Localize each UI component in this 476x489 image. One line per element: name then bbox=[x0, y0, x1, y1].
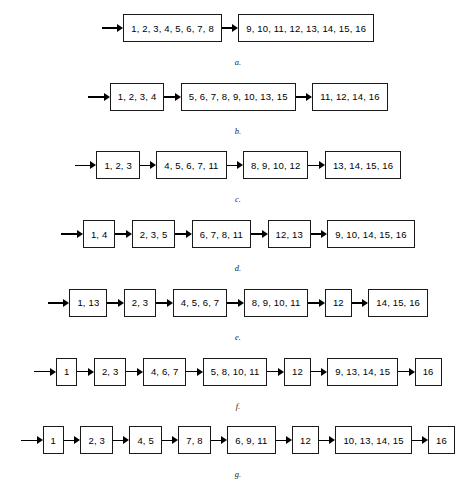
chain-box: 1, 2, 3, 4, 5, 6, 7, 8 bbox=[123, 14, 222, 42]
diagram-row-a: 1, 2, 3, 4, 5, 6, 7, 8 9, 10, 11, 12, 13… bbox=[0, 8, 476, 77]
row-label-text: e. bbox=[235, 332, 241, 342]
entry-arrow-icon bbox=[34, 367, 56, 377]
chain-box: 8, 9, 10, 12 bbox=[243, 151, 308, 179]
chain-box: 4, 5 bbox=[129, 426, 161, 454]
link-arrow-icon bbox=[77, 367, 94, 377]
chain-box: 1 bbox=[43, 426, 64, 454]
link-arrow-icon bbox=[227, 160, 244, 170]
chain-box: 9, 10, 11, 12, 13, 14, 15, 16 bbox=[238, 14, 374, 42]
box-chain-e: 1, 13 2, 3 4, 5, 6, 7 8, 9, 10, 11 12 14… bbox=[48, 283, 428, 323]
row-label-text: c. bbox=[235, 194, 241, 204]
entry-arrow-icon bbox=[21, 435, 43, 445]
link-arrow-icon bbox=[319, 435, 336, 445]
row-label-text: d. bbox=[235, 263, 241, 273]
chain-box: 16 bbox=[415, 358, 442, 386]
box-chain-b: 1, 2, 3, 4 5, 6, 7, 8, 9, 10, 13, 15 11,… bbox=[88, 77, 387, 117]
row-label-text: a. bbox=[235, 57, 241, 67]
row-label-text: g. bbox=[235, 469, 241, 479]
link-arrow-icon bbox=[251, 229, 268, 239]
chain-box: 4, 5, 6, 7, 11 bbox=[156, 151, 226, 179]
chain-box: 2, 3, 5 bbox=[132, 220, 175, 248]
chain-box: 6, 9, 11 bbox=[227, 426, 275, 454]
diagram-row-d: 1, 4 2, 3, 5 6, 7, 8, 11 12, 13 9, 10, 1… bbox=[0, 214, 476, 283]
chain-box: 12 bbox=[292, 426, 319, 454]
link-arrow-icon bbox=[308, 298, 325, 308]
link-arrow-icon bbox=[311, 367, 328, 377]
box-chain-c: 1, 2, 3 4, 5, 6, 7, 11 8, 9, 10, 12 13, … bbox=[75, 145, 401, 185]
chain-box: 5, 6, 7, 8, 9, 10, 13, 15 bbox=[181, 83, 296, 111]
chain-box: 1, 2, 3 bbox=[96, 151, 139, 179]
link-arrow-icon bbox=[113, 435, 130, 445]
chain-box: 1, 13 bbox=[69, 289, 107, 317]
link-arrow-icon bbox=[107, 298, 124, 308]
chain-box: 9, 13, 14, 15 bbox=[327, 358, 398, 386]
chain-box: 10, 13, 14, 15 bbox=[335, 426, 411, 454]
link-arrow-icon bbox=[175, 229, 192, 239]
row-label: a. bbox=[0, 57, 476, 67]
link-arrow-icon bbox=[311, 229, 328, 239]
box-chain-g: 1 2, 3 4, 5 7, 8 6, 9, 11 12 10, 13, 14,… bbox=[21, 420, 455, 460]
link-arrow-icon bbox=[186, 367, 203, 377]
chain-box: 4, 6, 7 bbox=[143, 358, 186, 386]
chain-box: 1 bbox=[56, 358, 77, 386]
chain-box: 12, 13 bbox=[268, 220, 311, 248]
chain-box: 7, 8 bbox=[178, 426, 210, 454]
link-arrow-icon bbox=[164, 92, 181, 102]
chain-box: 12 bbox=[284, 358, 311, 386]
link-arrow-icon bbox=[126, 367, 143, 377]
link-arrow-icon bbox=[227, 298, 244, 308]
link-arrow-icon bbox=[412, 435, 429, 445]
chain-box: 5, 8, 10, 11 bbox=[203, 358, 268, 386]
row-label: d. bbox=[0, 263, 476, 273]
diagram-row-g: 1 2, 3 4, 5 7, 8 6, 9, 11 12 10, 13, 14,… bbox=[0, 420, 476, 489]
link-arrow-icon bbox=[156, 298, 173, 308]
link-arrow-icon bbox=[267, 367, 284, 377]
link-arrow-icon bbox=[211, 435, 228, 445]
link-arrow-icon bbox=[222, 23, 239, 33]
row-label: b. bbox=[0, 126, 476, 136]
chain-box: 1, 2, 3, 4 bbox=[110, 83, 164, 111]
link-arrow-icon bbox=[308, 160, 325, 170]
chain-box: 14, 15, 16 bbox=[368, 289, 428, 317]
row-label: f. bbox=[0, 401, 476, 411]
row-label-text: f. bbox=[236, 401, 241, 411]
chain-box: 13, 14, 15, 16 bbox=[325, 151, 401, 179]
diagram-row-b: 1, 2, 3, 4 5, 6, 7, 8, 9, 10, 13, 15 11,… bbox=[0, 77, 476, 146]
entry-arrow-icon bbox=[48, 298, 70, 308]
link-arrow-icon bbox=[140, 160, 157, 170]
chain-box: 16 bbox=[428, 426, 455, 454]
chain-box: 6, 7, 8, 11 bbox=[192, 220, 251, 248]
chain-box: 2, 3 bbox=[94, 358, 126, 386]
chain-box: 11, 12, 14, 16 bbox=[312, 83, 388, 111]
link-arrow-icon bbox=[115, 229, 132, 239]
row-label: e. bbox=[0, 332, 476, 342]
row-label: g. bbox=[0, 469, 476, 479]
diagram-row-e: 1, 13 2, 3 4, 5, 6, 7 8, 9, 10, 11 12 14… bbox=[0, 283, 476, 352]
diagram-row-f: 1 2, 3 4, 6, 7 5, 8, 10, 11 12 9, 13, 14… bbox=[0, 352, 476, 421]
link-arrow-icon bbox=[296, 92, 313, 102]
link-arrow-icon bbox=[352, 298, 369, 308]
box-chain-d: 1, 4 2, 3, 5 6, 7, 8, 11 12, 13 9, 10, 1… bbox=[61, 214, 414, 254]
chain-box: 12 bbox=[325, 289, 352, 317]
link-arrow-icon bbox=[276, 435, 293, 445]
box-chain-f: 1 2, 3 4, 6, 7 5, 8, 10, 11 12 9, 13, 14… bbox=[34, 352, 441, 392]
chain-box: 9, 10, 14, 15, 16 bbox=[327, 220, 414, 248]
box-chain-a: 1, 2, 3, 4, 5, 6, 7, 8 9, 10, 11, 12, 13… bbox=[102, 8, 374, 48]
chain-box: 4, 5, 6, 7 bbox=[173, 289, 227, 317]
row-label-text: b. bbox=[235, 126, 241, 136]
chain-box: 2, 3 bbox=[80, 426, 112, 454]
link-arrow-icon bbox=[64, 435, 81, 445]
chain-box: 1, 4 bbox=[83, 220, 115, 248]
link-arrow-icon bbox=[398, 367, 415, 377]
chain-box: 2, 3 bbox=[124, 289, 156, 317]
entry-arrow-icon bbox=[102, 23, 124, 33]
chain-box: 8, 9, 10, 11 bbox=[244, 289, 309, 317]
row-label: c. bbox=[0, 194, 476, 204]
entry-arrow-icon bbox=[61, 229, 83, 239]
partition-diagram-figure: 1, 2, 3, 4, 5, 6, 7, 8 9, 10, 11, 12, 13… bbox=[0, 0, 476, 489]
entry-arrow-icon bbox=[75, 160, 97, 170]
diagram-row-c: 1, 2, 3 4, 5, 6, 7, 11 8, 9, 10, 12 13, … bbox=[0, 145, 476, 214]
link-arrow-icon bbox=[162, 435, 179, 445]
entry-arrow-icon bbox=[88, 92, 110, 102]
